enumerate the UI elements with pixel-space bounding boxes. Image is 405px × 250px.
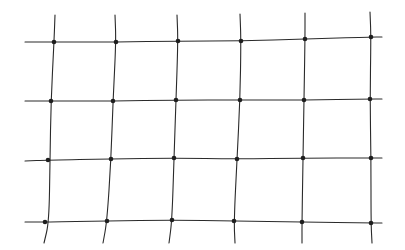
knots [43, 35, 374, 226]
knot [369, 221, 374, 226]
knot [302, 98, 307, 103]
horizontal-strand [25, 37, 382, 42]
horizontal-strands [25, 37, 382, 223]
vertical-strand [234, 14, 240, 243]
knot [300, 220, 305, 225]
vertical-strands [44, 12, 372, 243]
vertical-strand [103, 15, 116, 243]
net-mesh-image [0, 0, 405, 250]
knot [239, 39, 244, 44]
knot [49, 99, 54, 104]
knot [368, 97, 373, 102]
knot [109, 157, 114, 162]
vertical-strand [44, 15, 55, 243]
knot [105, 219, 110, 224]
knot [303, 37, 308, 42]
horizontal-strand [25, 220, 382, 223]
knot [232, 219, 237, 224]
vertical-strand [302, 13, 305, 243]
knot [369, 35, 374, 40]
knot [46, 158, 51, 163]
knot [176, 39, 181, 44]
knot [172, 156, 177, 161]
knot [235, 157, 240, 162]
knot [114, 40, 119, 45]
knot [170, 218, 175, 223]
knot [111, 99, 116, 104]
knot [174, 98, 179, 103]
knot [43, 220, 48, 225]
knot [301, 156, 306, 161]
horizontal-strand [25, 158, 382, 161]
knot [369, 156, 374, 161]
knot [52, 40, 57, 45]
horizontal-strand [25, 99, 382, 101]
vertical-strand [370, 12, 372, 243]
vertical-strand [169, 15, 178, 243]
knot [238, 98, 243, 103]
